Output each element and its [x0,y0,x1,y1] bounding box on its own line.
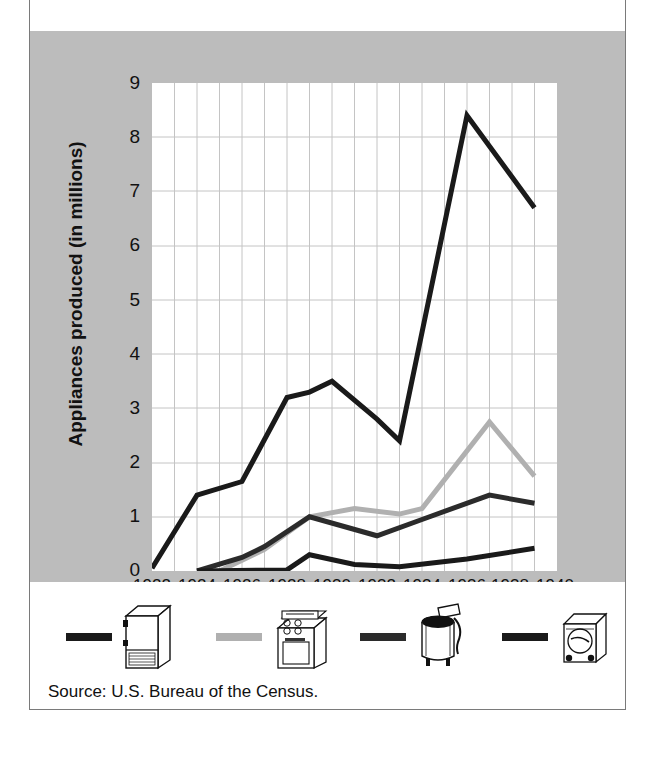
y-tick-8: 8 [108,127,140,146]
plot-area [152,83,557,571]
legend-swatch-vacuum-cleaner [502,633,548,641]
y-tick-7: 7 [108,181,140,200]
y-axis-title: Appliances produced (in millions) [65,84,87,504]
legend-item-vacuum-cleaner[interactable] [502,600,614,674]
vacuum-cleaner-icon [556,598,614,676]
source-note: Source: U.S. Bureau of the Census. [48,682,318,702]
series-layer [152,116,535,571]
chart-svg [152,83,557,571]
chart-title-strip: Appliances produced in the United States [30,0,625,12]
y-tick-3: 3 [108,398,140,417]
chart-panel: Appliances produced (in millions) 9 8 7 … [30,31,625,582]
legend-item-refrigerator[interactable] [66,600,176,674]
stove-range-icon [270,598,332,676]
legend-swatch-washing-machine [360,633,406,641]
washing-machine-icon [414,598,470,676]
y-tick-6: 6 [108,235,140,254]
legend-swatch-stove-range [216,633,262,641]
legend-box: Source: U.S. Bureau of the Census. [30,582,625,709]
y-tick-5: 5 [108,290,140,309]
y-tick-1: 1 [108,506,140,525]
y-tick-9: 9 [108,73,140,92]
refrigerator-icon [120,598,176,676]
legend-item-washing-machine[interactable] [360,600,470,674]
figure-root: Appliances produced in the United States… [0,0,656,767]
y-tick-2: 2 [108,452,140,471]
legend-swatch-refrigerator [66,633,112,641]
legend-row [30,600,625,674]
y-tick-4: 4 [108,344,140,363]
legend-item-stove-range[interactable] [216,600,332,674]
